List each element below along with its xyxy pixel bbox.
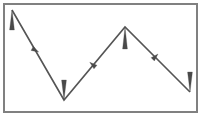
zigzag-line-chart xyxy=(0,0,202,118)
figure-background xyxy=(0,0,202,118)
figure-container xyxy=(0,0,202,118)
